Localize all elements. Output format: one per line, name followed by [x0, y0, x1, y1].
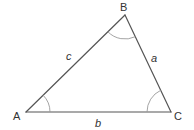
vertex-label-a: A — [13, 110, 21, 122]
side-a — [125, 15, 171, 112]
vertex-label-b: B — [120, 1, 127, 13]
angle-a-arc — [43, 95, 50, 112]
side-c — [26, 15, 125, 112]
vertex-label-c: C — [174, 110, 182, 122]
side-label-a: a — [151, 52, 157, 64]
side-label-b: b — [95, 117, 101, 129]
angle-c-arc — [147, 90, 161, 112]
triangle-diagram: B A C c a b — [0, 0, 194, 130]
side-label-c: c — [66, 50, 72, 62]
angle-b-arc — [108, 32, 135, 39]
